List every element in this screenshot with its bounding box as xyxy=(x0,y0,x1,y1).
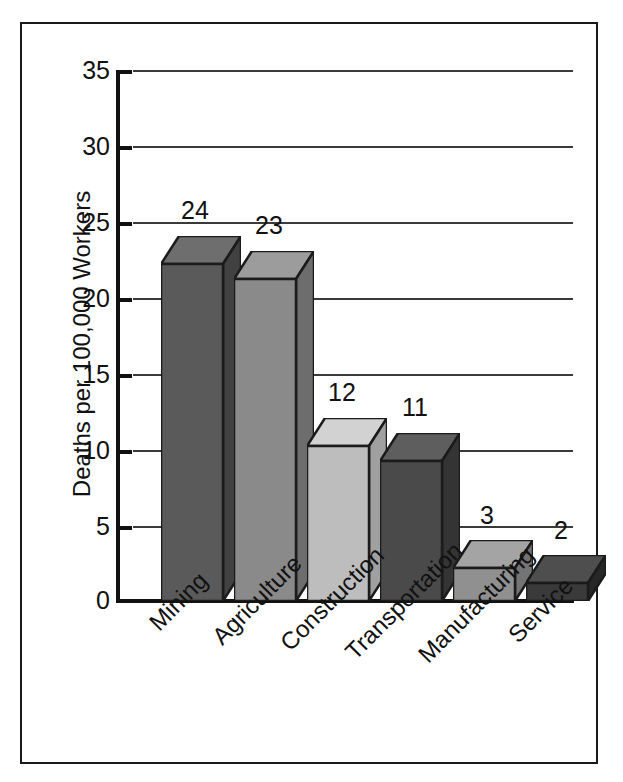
y-tick-20 xyxy=(116,298,132,302)
bar-value-manufacturing: 3 xyxy=(462,503,512,528)
gridline-30 xyxy=(133,146,573,148)
gridline-35 xyxy=(133,70,573,72)
bar-value-transportation: 11 xyxy=(390,395,440,420)
bar-mining-shape xyxy=(161,236,241,601)
bar-value-construction: 12 xyxy=(317,380,367,405)
bar-mining[interactable] xyxy=(161,236,241,601)
y-tick-35 xyxy=(116,70,132,74)
bar-value-mining: 24 xyxy=(170,198,220,223)
y-tick-10 xyxy=(116,450,132,454)
y-tick-label-35: 35 xyxy=(64,58,110,83)
y-tick-5 xyxy=(116,526,132,530)
bar-agriculture[interactable] xyxy=(234,251,314,601)
y-tick-15 xyxy=(116,374,132,378)
y-axis-title: Deaths per 100,000 Workers xyxy=(68,134,96,554)
y-tick-30 xyxy=(116,146,132,150)
bar-agriculture-shape xyxy=(234,251,314,601)
bar-value-service: 2 xyxy=(536,518,586,543)
bar-value-agriculture: 23 xyxy=(244,213,294,238)
plot-area: 35 30 25 20 15 10 5 0 Deaths per 100,000… xyxy=(0,0,623,782)
chart-figure: 35 30 25 20 15 10 5 0 Deaths per 100,000… xyxy=(0,0,623,782)
y-tick-25 xyxy=(116,222,132,226)
y-tick-label-0: 0 xyxy=(64,588,110,613)
